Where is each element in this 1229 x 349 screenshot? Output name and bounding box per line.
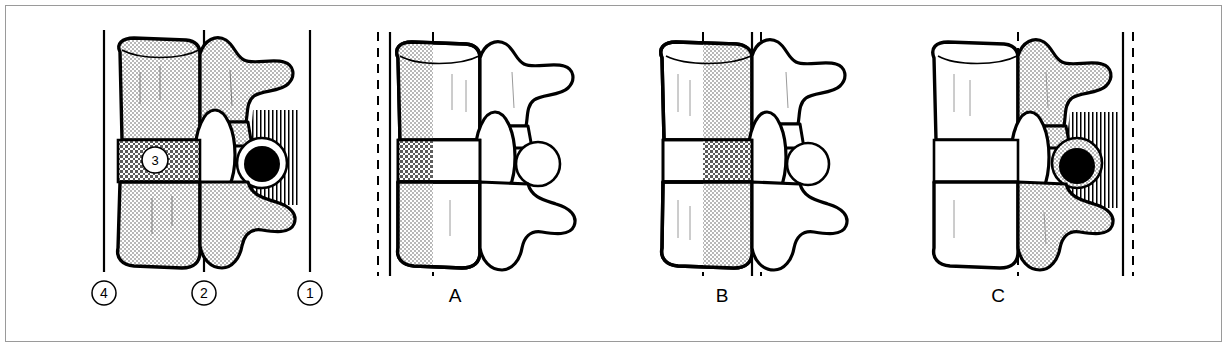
panel-c-upper-body xyxy=(933,42,1018,140)
vertebral-reference-figure: 3 4 2 1 xyxy=(0,0,1229,349)
panel-c-spinal-cord xyxy=(1059,148,1095,184)
panel-a-lower-body-shaded xyxy=(398,182,433,267)
panel-a-disc-shaded xyxy=(398,140,433,182)
lower-vertebral-body xyxy=(118,182,200,268)
callout-4: 4 xyxy=(92,281,116,305)
panel-b: B xyxy=(661,32,847,306)
panel-a-arch-lower xyxy=(480,182,575,270)
callout-4-label: 4 xyxy=(100,285,108,301)
spinal-cord xyxy=(244,146,280,182)
panel-c: C xyxy=(933,32,1133,306)
callout-2: 2 xyxy=(192,281,216,305)
panel-a-letter: A xyxy=(449,285,462,306)
panel-b-disc-shaded xyxy=(703,140,752,182)
panel-a-spinal-canal xyxy=(516,142,560,186)
panel-reference: 3 4 2 1 xyxy=(92,30,322,305)
callout-1: 1 xyxy=(298,281,322,305)
callout-1-label: 1 xyxy=(306,285,314,301)
panel-c-letter: C xyxy=(991,285,1005,306)
panel-b-lower-body-shaded xyxy=(703,182,752,268)
panel-b-letter: B xyxy=(716,285,729,306)
disc-callout-label: 3 xyxy=(151,153,158,168)
panel-a: A xyxy=(378,32,575,306)
panel-b-spinal-canal xyxy=(787,143,829,185)
panel-c-disc xyxy=(934,140,1018,182)
panel-c-lower-body xyxy=(934,182,1018,268)
callout-2-label: 2 xyxy=(200,285,208,301)
panel-b-arch-lower xyxy=(752,182,847,270)
